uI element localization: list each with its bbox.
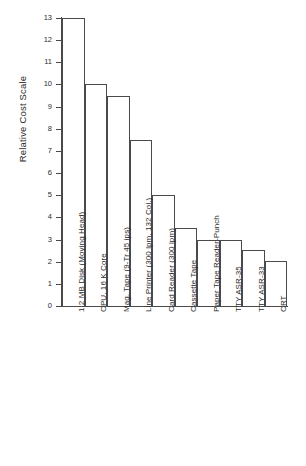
y-axis-tick [56,107,61,108]
y-axis-tick [56,306,61,307]
y-axis-tick [56,284,61,285]
y-axis-tick [56,84,61,85]
y-axis-tick [56,173,61,174]
y-axis-tick-label: 9 [26,103,52,111]
x-axis-label: Paper Tape Reader-Punch [212,215,221,312]
y-axis-tick [56,195,61,196]
y-axis-tick [56,18,61,19]
y-axis-tick [56,262,61,263]
x-axis-label: Line Printer (300 lpm, 132 Col.) [144,198,153,312]
x-axis-label: 1.2 MB Disk (Moving Head) [77,212,86,312]
x-axis-label: CRT [279,295,288,312]
y-axis-tick [56,62,61,63]
y-axis-tick-label: 3 [26,236,52,244]
y-axis-tick [56,217,61,218]
y-axis-tick [56,129,61,130]
y-axis-tick-label: 13 [26,14,52,22]
y-axis-tick-label: 5 [26,191,52,199]
x-axis-label: Card Reader (300 lpm) [167,228,176,312]
y-axis-tick-label: 10 [26,80,52,88]
x-axis-label: Cassette Tape [189,260,198,312]
y-axis-tick-label: 12 [26,36,52,44]
x-axis-label: Mag. Tape (9-Tr 45 ips) [122,227,131,312]
y-axis-tick-label: 6 [26,169,52,177]
y-axis-tick [56,240,61,241]
x-axis-label: TTY ASR-33 [257,266,266,312]
y-axis-tick-label: 2 [26,258,52,266]
y-axis-title: Relative Cost Scale [14,49,32,189]
y-axis-tick-label: 1 [26,280,52,288]
x-axis-label: CPU, 16 K Core [99,253,108,312]
y-axis-tick [56,40,61,41]
y-axis-tick-label: 4 [26,213,52,221]
relative-cost-scale-bar-chart: Relative Cost Scale 012345678910111213 1… [0,0,306,466]
y-axis-tick-label: 11 [26,58,52,66]
x-axis-label: TTY ASR-35 [234,266,243,312]
y-axis-tick-label: 0 [26,302,52,310]
y-axis-tick [56,151,61,152]
y-axis-tick-label: 8 [26,125,52,133]
y-axis-tick-label: 7 [26,147,52,155]
